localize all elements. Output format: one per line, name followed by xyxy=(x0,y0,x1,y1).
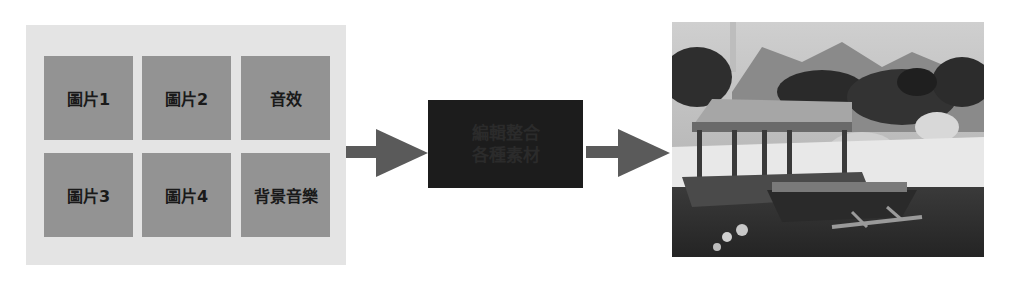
arrow-right-icon xyxy=(346,128,428,178)
tile-label: 音效 xyxy=(270,86,302,110)
process-label-line2: 各種素材 xyxy=(472,144,540,166)
tile-label: 圖片4 xyxy=(165,183,208,207)
tile-image-4: 圖片4 xyxy=(142,153,231,237)
tile-image-2: 圖片2 xyxy=(142,56,231,140)
tile-image-3: 圖片3 xyxy=(44,153,133,237)
process-label-line1: 編輯整合 xyxy=(472,122,540,144)
source-materials-panel: 圖片1 圖片2 音效 圖片3 圖片4 背景音樂 xyxy=(26,25,346,265)
tile-label: 圖片1 xyxy=(67,86,110,110)
tile-image-1: 圖片1 xyxy=(44,56,133,140)
arrow-right-icon xyxy=(586,128,670,178)
tile-background-music: 背景音樂 xyxy=(241,153,330,237)
tile-label: 圖片3 xyxy=(67,183,110,207)
tile-label: 背景音樂 xyxy=(254,183,318,207)
beach-scene-illustration xyxy=(672,22,984,257)
output-scene-image xyxy=(672,22,984,257)
tile-sound-effects: 音效 xyxy=(241,56,330,140)
tile-label: 圖片2 xyxy=(165,86,208,110)
process-box: 編輯整合 各種素材 xyxy=(428,100,583,188)
